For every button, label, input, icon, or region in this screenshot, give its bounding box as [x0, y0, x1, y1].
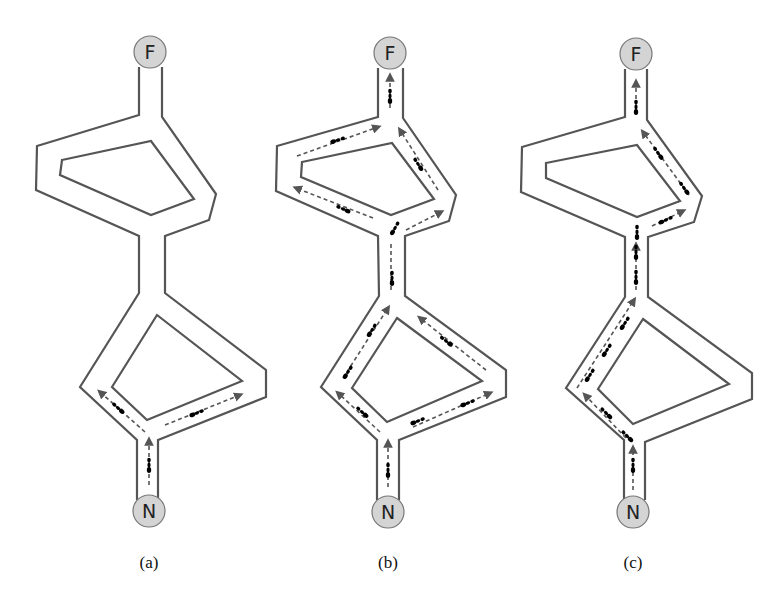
ant-trails	[577, 82, 689, 490]
ant-colony-figure: F N (a)	[0, 0, 784, 604]
panel-caption: (a)	[140, 553, 159, 572]
food-label: F	[385, 42, 396, 64]
food-node: F	[620, 38, 652, 70]
ant-trails	[100, 392, 240, 485]
nest-node: N	[617, 496, 649, 528]
nest-node: N	[372, 496, 404, 528]
nest-label: N	[142, 500, 156, 522]
panel-b: F N (b)	[276, 37, 506, 572]
food-node: F	[134, 36, 166, 68]
panel-c: F N (c)	[521, 38, 752, 572]
nest-label: N	[626, 501, 640, 523]
nest-node: N	[133, 495, 165, 527]
ants	[329, 89, 477, 478]
food-label: F	[631, 43, 642, 65]
food-label: F	[145, 41, 156, 63]
nest-label: N	[381, 501, 395, 523]
panel-a: F N (a)	[36, 36, 266, 572]
maze-walls	[36, 67, 266, 500]
food-node: F	[374, 37, 406, 69]
panel-caption: (b)	[378, 553, 398, 572]
panel-caption: (c)	[624, 553, 643, 572]
